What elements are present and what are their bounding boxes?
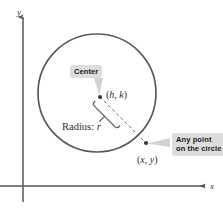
y-axis-label: y [17,8,21,17]
circle-point-label: (x, y) [137,155,158,165]
radius-label: Radius: r [62,122,101,133]
circle-diagram-figure: y x (h, k) (x, y) Radius: r Center Any p… [0,0,223,210]
any-point-callout-leader [147,138,170,147]
any-point-callout: Any point on the circle [172,133,223,156]
x-axis-label: x [210,182,214,191]
circle-shape [38,34,156,152]
center-callout: Center [70,65,102,78]
diagram-vector-layer [0,0,223,210]
radius-dashed-line [100,97,146,143]
center-point-label: (h, k) [106,90,127,100]
center-point-dot [98,95,102,99]
center-callout-leader [94,78,103,95]
circle-point-dot [144,141,148,145]
